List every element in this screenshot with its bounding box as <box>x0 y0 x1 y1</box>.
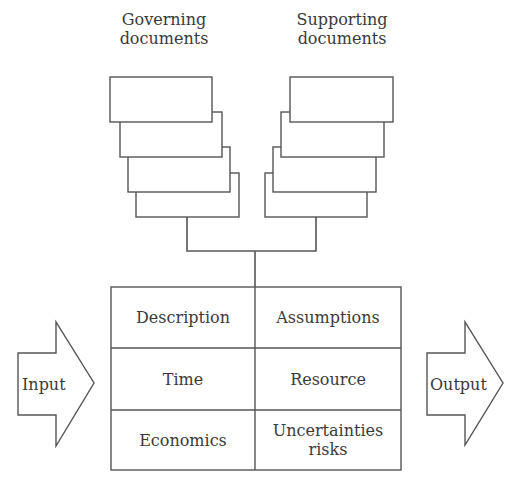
cell-assumptions-label: Assumptions <box>276 308 379 327</box>
supporting-heading-line2: documents <box>286 29 398 48</box>
cell-assumptions: Assumptions <box>255 287 401 348</box>
supporting-doc-1 <box>290 77 393 122</box>
governing-doc-1 <box>110 77 212 122</box>
output-label-text: Output <box>430 375 487 394</box>
governing-heading-line1: Governing <box>108 10 220 29</box>
cell-resource-label: Resource <box>290 370 366 389</box>
cell-description-label: Description <box>136 308 230 327</box>
input-label: Input <box>18 353 72 415</box>
cell-resource: Resource <box>255 348 401 410</box>
input-label-text: Input <box>22 375 66 394</box>
cell-uncertainties-label: Uncertainties <box>273 421 383 440</box>
cell-economics: Economics <box>111 410 255 470</box>
supporting-documents-heading: Supporting documents <box>286 10 398 48</box>
cell-risks-label: risks <box>309 440 348 459</box>
cell-uncertainties-risks: Uncertainties risks <box>255 410 401 470</box>
cell-time: Time <box>111 348 255 410</box>
governing-documents-heading: Governing documents <box>108 10 220 48</box>
governing-heading-line2: documents <box>108 29 220 48</box>
cell-description: Description <box>111 287 255 348</box>
merge-connector <box>187 217 316 287</box>
supporting-heading-line1: Supporting <box>286 10 398 29</box>
cell-economics-label: Economics <box>139 431 227 450</box>
cell-time-label: Time <box>163 370 203 389</box>
output-label: Output <box>427 353 500 415</box>
